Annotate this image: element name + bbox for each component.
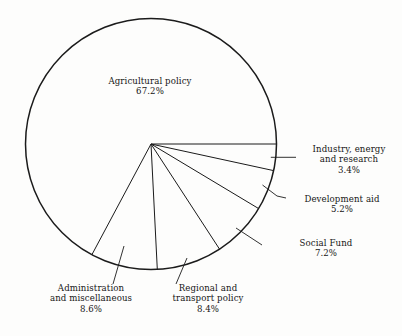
slice-divider-administration xyxy=(92,144,151,255)
leader-line-administration xyxy=(113,246,124,284)
slice-label-percent: 8.4% xyxy=(148,304,268,314)
slice-label-line1: Industry, energy xyxy=(297,144,401,154)
slice-label-line2: transport policy xyxy=(148,293,268,303)
leader-line-development-aid xyxy=(263,185,287,198)
leader-line-regional-transport xyxy=(176,258,187,284)
slice-divider-development-aid xyxy=(151,144,259,209)
slice-label-agricultural-policy: Agricultural policy 67.2% xyxy=(62,76,238,97)
leader-line-social-fund xyxy=(236,228,262,245)
slice-divider-industry-energy xyxy=(151,144,274,171)
slice-label-percent: 67.2% xyxy=(62,86,238,96)
slice-label-administration: Administration and miscellaneous 8.6% xyxy=(24,283,158,314)
slice-label-social-fund: Social Fund 7.2% xyxy=(268,238,384,259)
slice-label-line2: and research xyxy=(297,154,401,164)
slice-label-line1: Agricultural policy xyxy=(62,76,238,86)
pie-chart-figure: Agricultural policy 67.2% Industry, ener… xyxy=(0,0,402,336)
slice-label-industry-energy: Industry, energy and research 3.4% xyxy=(297,144,401,175)
slice-label-line1: Social Fund xyxy=(268,238,384,248)
slice-label-line1: Regional and xyxy=(148,283,268,293)
slice-label-percent: 7.2% xyxy=(268,248,384,258)
slice-label-percent: 5.2% xyxy=(284,204,400,214)
slice-divider-social-fund xyxy=(151,144,220,249)
slice-label-line2: and miscellaneous xyxy=(24,293,158,303)
slice-label-percent: 8.6% xyxy=(24,304,158,314)
slice-label-line1: Administration xyxy=(24,283,158,293)
slice-divider-regional-transport xyxy=(151,144,157,269)
slice-label-regional-transport: Regional and transport policy 8.4% xyxy=(148,283,268,314)
slice-label-line1: Development aid xyxy=(284,194,400,204)
slice-label-percent: 3.4% xyxy=(297,165,401,175)
slice-label-development-aid: Development aid 5.2% xyxy=(284,194,400,215)
